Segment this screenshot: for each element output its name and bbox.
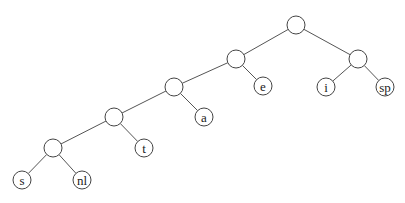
tree-nodes: eispatsnl	[13, 16, 394, 189]
huffman-tree-diagram: eispatsnl	[0, 0, 405, 203]
node-circle	[165, 78, 183, 96]
edge-n3-t	[120, 123, 137, 141]
edge-n4-nl	[59, 155, 76, 174]
edge-n2-n3	[122, 91, 166, 113]
node-label: t	[142, 141, 146, 156]
node-circle	[44, 139, 62, 157]
node-circle	[105, 108, 123, 126]
leaf-node-s: s	[13, 171, 31, 189]
edge-root-n_isp	[304, 29, 350, 54]
node-circle	[349, 50, 367, 68]
edge-n3-n4	[61, 121, 106, 144]
node-label: s	[19, 173, 24, 188]
leaf-node-e: e	[254, 77, 272, 95]
edge-n2-a	[180, 93, 197, 110]
leaf-node-nl: nl	[73, 171, 91, 189]
leaf-node-i: i	[317, 78, 335, 96]
node-label: e	[260, 79, 266, 94]
edge-n4-s	[28, 154, 46, 173]
internal-node-root	[287, 16, 305, 34]
edge-n1-n2	[182, 63, 228, 84]
internal-node-n1	[227, 50, 245, 68]
internal-node-n4	[44, 139, 62, 157]
node-label: a	[201, 110, 207, 125]
node-circle	[227, 50, 245, 68]
leaf-node-t: t	[135, 139, 153, 157]
node-label: sp	[379, 80, 391, 95]
node-circle	[287, 16, 305, 34]
tree-edges	[28, 29, 378, 173]
node-label: i	[324, 80, 328, 95]
node-label: nl	[77, 173, 88, 188]
internal-node-n_isp	[349, 50, 367, 68]
internal-node-n2	[165, 78, 183, 96]
edge-n_isp-i	[333, 65, 351, 81]
leaf-node-a: a	[195, 108, 213, 126]
edge-n1-e	[242, 65, 256, 79]
internal-node-n3	[105, 108, 123, 126]
edge-root-n1	[244, 29, 288, 54]
leaf-node-sp: sp	[376, 78, 394, 96]
edge-n_isp-sp	[364, 65, 379, 80]
